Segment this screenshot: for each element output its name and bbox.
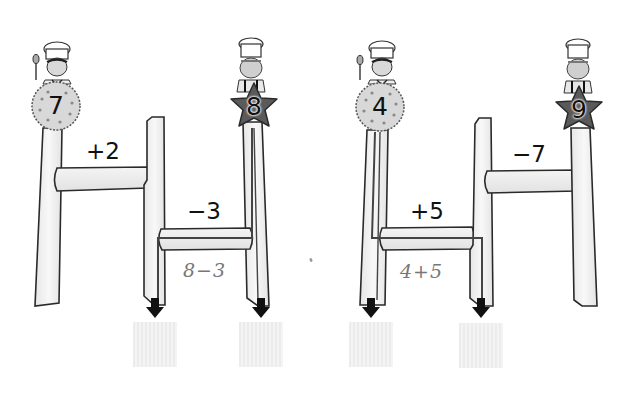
rung-operation-label: −7	[512, 143, 546, 166]
ladder-post	[35, 128, 62, 306]
ladder-puzzle-worksheet: 7 8 4 9 +2 −3 +5 −7 8−3 4+5	[0, 0, 634, 395]
start-number: 7	[41, 93, 71, 118]
start-number: 4	[365, 94, 395, 119]
ladder-rung	[485, 170, 580, 193]
start-number: 8	[239, 94, 269, 119]
worked-hint: 4+5	[400, 262, 443, 281]
answer-box[interactable]	[133, 322, 177, 367]
chef-character-icon	[357, 41, 396, 85]
rung-operation-label: +2	[86, 140, 120, 163]
answer-box[interactable]	[239, 322, 283, 367]
chef-character-icon	[33, 42, 71, 85]
rung-operation-label: +5	[410, 200, 444, 223]
rung-operation-label: −3	[187, 200, 221, 223]
answer-box[interactable]	[459, 323, 503, 368]
worked-hint: 8−3	[183, 261, 226, 280]
chef-character-icon	[564, 39, 592, 93]
ladder-rung	[55, 167, 151, 191]
chef-character-icon	[237, 38, 265, 92]
answer-box[interactable]	[349, 322, 393, 367]
ladder-illustration	[0, 0, 634, 395]
ladder-post	[571, 128, 597, 306]
start-number: 9	[564, 97, 594, 122]
ladder-post	[144, 117, 165, 305]
